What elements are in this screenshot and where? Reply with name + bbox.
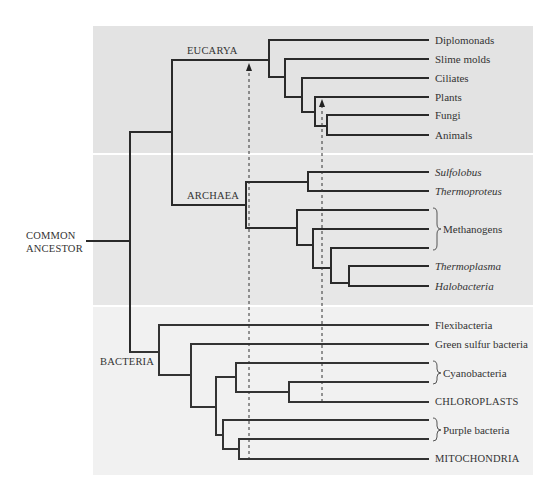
taxon-diplomonads: Diplomonads xyxy=(435,34,494,46)
cyanobacteria-brace-icon xyxy=(433,361,441,384)
taxon-slime-molds: Slime molds xyxy=(435,53,490,65)
taxon-methanogens: Methanogens xyxy=(443,223,502,235)
taxon-mitochondria: MITOCHONDRIA xyxy=(435,453,519,465)
taxon-thermoproteus: Thermoproteus xyxy=(435,185,502,197)
taxon-flexibacteria: Flexibacteria xyxy=(435,319,492,331)
taxon-cyanobacteria: Cyanobacteria xyxy=(443,367,507,379)
root-label-line1: COMMON xyxy=(26,230,76,242)
arrowhead-icon xyxy=(246,63,252,71)
root-label-line2: ANCESTOR xyxy=(26,243,83,255)
purple-bacteria-brace-icon xyxy=(433,418,441,441)
taxon-halobacteria: Halobacteria xyxy=(435,280,494,292)
taxon-green-sulfur-bacteria: Green sulfur bacteria xyxy=(435,338,528,350)
root-branch xyxy=(87,60,172,352)
domain-label-archaea: ARCHAEA xyxy=(187,190,239,202)
taxon-animals: Animals xyxy=(435,129,472,141)
taxon-thermoplasma: Thermoplasma xyxy=(435,260,501,272)
methanogens-brace-icon xyxy=(433,208,441,250)
bacteria-branches xyxy=(130,325,428,459)
domain-label-bacteria: BACTERIA xyxy=(100,356,154,368)
taxon-fungi: Fungi xyxy=(435,109,461,121)
taxon-plants: Plants xyxy=(435,91,462,103)
taxon-sulfolobus: Sulfolobus xyxy=(435,166,481,178)
arrowhead-icon xyxy=(319,99,325,107)
phylogenetic-tree xyxy=(0,0,556,490)
taxon-ciliates: Ciliates xyxy=(435,72,469,84)
taxon-chloroplasts: CHLOROPLASTS xyxy=(435,396,519,408)
domain-label-eucarya: EUCARYA xyxy=(187,45,237,57)
taxon-purple-bacteria: Purple bacteria xyxy=(443,424,509,436)
